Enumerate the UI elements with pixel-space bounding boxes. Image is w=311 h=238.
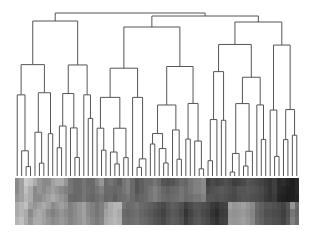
heatmap xyxy=(15,178,299,225)
heatmap-cell xyxy=(295,186,299,194)
heatmap-cell xyxy=(295,194,299,202)
heatmap-cell xyxy=(295,202,299,210)
heatmap-cell xyxy=(295,217,299,225)
heatmap-cell xyxy=(295,178,299,186)
heatmap-cell xyxy=(295,209,299,217)
dendrogram xyxy=(0,0,311,178)
